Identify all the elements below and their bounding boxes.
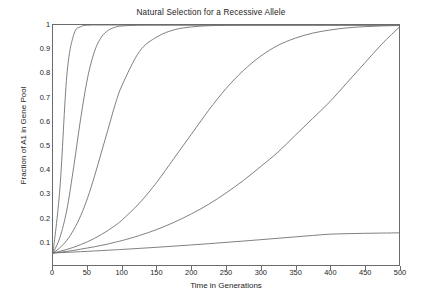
y-tick-label: 0.9 xyxy=(24,44,50,53)
figure-canvas: Natural Selection for a Recessive Allele… xyxy=(0,0,422,304)
y-tick-label: 0.5 xyxy=(24,141,50,150)
y-tick-label: 0.2 xyxy=(24,213,50,222)
y-tick-label: 0.6 xyxy=(24,116,50,125)
x-axis-tick-labels: 050100150200250300350400450500 xyxy=(52,268,400,280)
plot-area xyxy=(52,24,400,266)
y-tick-label: 0.4 xyxy=(24,165,50,174)
x-axis-label: Time in Generations xyxy=(52,281,400,290)
curve-curve-3 xyxy=(53,25,399,253)
y-tick-label: 0.8 xyxy=(24,68,50,77)
y-tick-label: 0.3 xyxy=(24,189,50,198)
curves-svg xyxy=(53,25,399,265)
y-tick-label: 1 xyxy=(24,20,50,29)
y-tick-label: 0.7 xyxy=(24,92,50,101)
page-title: Natural Selection for a Recessive Allele xyxy=(0,8,422,17)
curve-curve-6 xyxy=(53,233,399,253)
y-axis-tick-labels: 0.10.20.30.40.50.60.70.80.91 xyxy=(20,24,50,266)
y-tick-label: 0.1 xyxy=(24,237,50,246)
x-tick-label: 500 xyxy=(380,268,420,277)
